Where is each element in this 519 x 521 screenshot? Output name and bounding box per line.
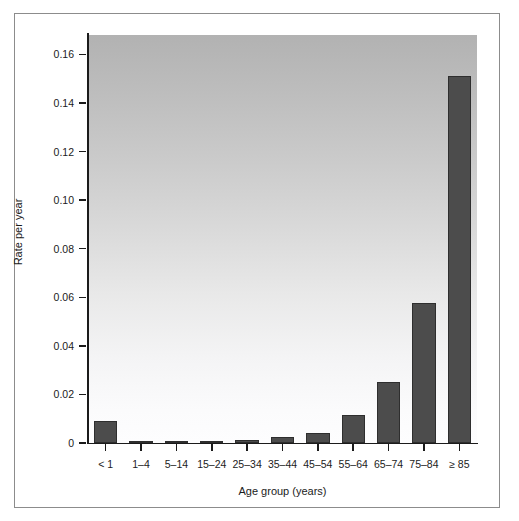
y-tick-mark bbox=[79, 297, 86, 299]
bar bbox=[412, 303, 435, 443]
y-axis-line bbox=[87, 33, 89, 444]
x-tick-mark bbox=[211, 444, 213, 451]
x-tick-mark bbox=[282, 444, 284, 451]
x-tick-label: 15–24 bbox=[194, 456, 229, 472]
x-tick-mark bbox=[176, 444, 178, 451]
y-tick-label: 0.04 bbox=[0, 339, 74, 353]
bar bbox=[448, 76, 471, 443]
x-tick-mark bbox=[105, 444, 107, 451]
y-tick-label: 0.16 bbox=[0, 47, 74, 61]
x-tick-mark bbox=[317, 444, 319, 451]
x-tick-label: 75–84 bbox=[406, 456, 441, 472]
bar bbox=[377, 382, 400, 443]
y-tick-mark bbox=[79, 394, 86, 396]
x-tick-label: 1–4 bbox=[123, 456, 158, 472]
y-tick-label: 0.14 bbox=[0, 96, 74, 110]
x-tick-mark bbox=[140, 444, 142, 451]
x-tick-label: 35–44 bbox=[265, 456, 300, 472]
y-tick-label: 0 bbox=[0, 436, 74, 450]
bar bbox=[342, 415, 365, 443]
x-tick-mark bbox=[459, 444, 461, 451]
x-tick-label: 25–34 bbox=[229, 456, 264, 472]
y-tick-label: 0.02 bbox=[0, 387, 74, 401]
y-tick-mark bbox=[79, 102, 86, 104]
x-tick-mark bbox=[423, 444, 425, 451]
x-tick-label: 45–54 bbox=[300, 456, 335, 472]
y-tick-mark bbox=[79, 345, 86, 347]
x-tick-mark bbox=[352, 444, 354, 451]
x-tick-label: ≥ 85 bbox=[442, 456, 477, 472]
x-tick-label: 55–64 bbox=[336, 456, 371, 472]
y-tick-mark bbox=[79, 54, 86, 56]
y-axis-title: Rate per year bbox=[8, 152, 26, 312]
x-tick-label: < 1 bbox=[88, 456, 123, 472]
y-tick-mark bbox=[79, 442, 86, 444]
x-tick-mark bbox=[246, 444, 248, 451]
x-axis-title-text: Age group (years) bbox=[238, 485, 326, 497]
figure: 00.020.040.060.080.100.120.140.16 < 11–4… bbox=[0, 0, 519, 521]
x-tick-label: 65–74 bbox=[371, 456, 406, 472]
x-tick-mark bbox=[388, 444, 390, 451]
y-tick-mark bbox=[79, 248, 86, 250]
y-tick-mark bbox=[79, 151, 86, 153]
x-axis-title: Age group (years) bbox=[88, 481, 477, 499]
plot-area bbox=[88, 35, 477, 443]
bar bbox=[94, 421, 117, 443]
y-tick-mark bbox=[79, 199, 86, 201]
y-axis-title-text: Rate per year bbox=[12, 199, 24, 266]
x-tick-label: 5–14 bbox=[159, 456, 194, 472]
